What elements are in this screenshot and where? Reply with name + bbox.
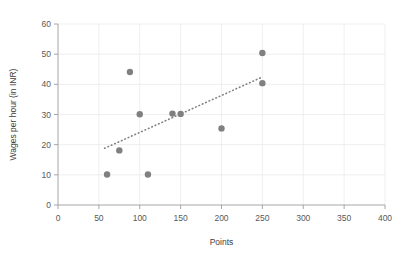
x-tick-label: 250 [255,213,269,223]
y-tick-label: 60 [42,19,52,29]
y-tick-label: 40 [42,79,52,89]
data-point [104,171,110,177]
data-points [104,50,266,178]
gridlines [58,24,385,205]
data-point [116,147,122,153]
x-tick-labels: 050100150200250300350400 [56,213,393,223]
y-tick-label: 30 [42,110,52,120]
x-tick-label: 350 [337,213,351,223]
y-tick-label: 50 [42,49,52,59]
data-point [259,50,265,56]
x-tick-label: 400 [378,213,392,223]
x-tick-label: 150 [174,213,188,223]
y-axis-title: Wages per hour (in INR) [8,68,18,160]
data-point [177,111,183,117]
y-tick-label: 10 [42,170,52,180]
data-point [259,80,265,86]
data-point [127,69,133,75]
x-tick-label: 200 [214,213,228,223]
data-point [218,125,224,131]
y-tick-label: 20 [42,140,52,150]
x-tick-label: 50 [94,213,104,223]
y-tick-label: 0 [46,200,51,210]
x-tick-label: 100 [133,213,147,223]
x-tick-label: 300 [296,213,310,223]
chart-canvas: 0102030405060 050100150200250300350400 P… [0,0,405,258]
scatter-chart: 0102030405060 050100150200250300350400 P… [0,0,405,258]
tick-marks [54,24,385,209]
data-point [145,171,151,177]
data-point [137,111,143,117]
x-axis-title: Points [210,237,234,247]
x-tick-label: 0 [56,213,61,223]
data-point [169,110,175,116]
y-tick-labels: 0102030405060 [42,19,52,210]
